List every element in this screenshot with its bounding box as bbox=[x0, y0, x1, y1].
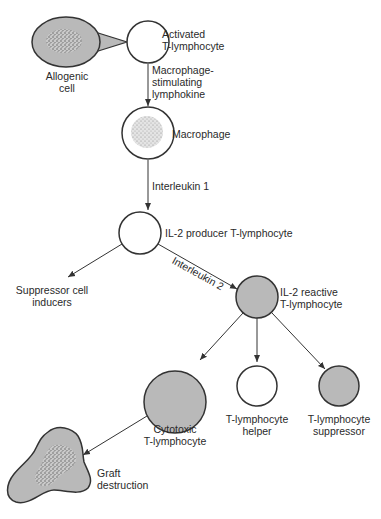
label-lymphokine: Macrophage- stimulating lymphokine bbox=[152, 64, 214, 100]
label-activated-t-lymphocyte: Activated T-lymphocyte bbox=[162, 28, 224, 52]
label-interleukin-1: Interleukin 1 bbox=[152, 180, 209, 192]
label-helper: T-lymphocyte helper bbox=[224, 413, 290, 437]
arrow-suppressor bbox=[272, 313, 325, 369]
label-suppressor: T-lymphocyte suppressor bbox=[306, 413, 372, 437]
label-graft: Graft destruction bbox=[97, 467, 148, 491]
graft-shape bbox=[8, 428, 91, 503]
label-macrophage: Macrophage bbox=[172, 128, 230, 140]
helper-circle bbox=[237, 366, 277, 406]
suppressor-circle bbox=[319, 366, 359, 406]
label-suppressor-inducers: Suppressor cell inducers bbox=[14, 284, 90, 308]
arrow-suppressor-inducers bbox=[68, 244, 122, 277]
il2-reactive-circle bbox=[236, 276, 278, 318]
macrophage-shape bbox=[122, 107, 174, 159]
arrow-cytotoxic bbox=[200, 313, 243, 360]
arrow-graft bbox=[83, 416, 147, 455]
allogenic-cell-shape bbox=[32, 17, 127, 67]
il2-producer-circle bbox=[119, 212, 161, 254]
label-allogenic-cell: Allogenic cell bbox=[44, 70, 90, 94]
label-cytotoxic: Cytotoxic T-lymphocyte bbox=[142, 423, 208, 447]
label-il2-reactive: IL-2 reactive T-lymphocyte bbox=[280, 286, 342, 310]
label-il2-producer: IL-2 producer T-lymphocyte bbox=[165, 227, 293, 239]
